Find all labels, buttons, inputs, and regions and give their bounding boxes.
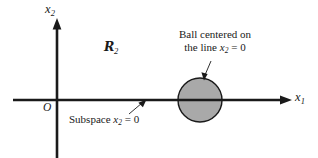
ball-caption-line-2-prefix: the line bbox=[184, 41, 219, 53]
ball-caption-line-1: Ball centered on bbox=[163, 28, 267, 41]
x2-axis-label: x2 bbox=[45, 2, 55, 18]
space-label-subscript: 2 bbox=[114, 46, 118, 56]
ball-caption-line-2-variable: x bbox=[220, 41, 225, 53]
figure-canvas bbox=[0, 0, 318, 158]
space-label-symbol: R bbox=[104, 39, 114, 54]
subspace-caption-prefix: Subspace bbox=[69, 113, 113, 125]
subspace-caption: Subspace x2 = 0 bbox=[69, 113, 139, 128]
subspace-caption-suffix: = 0 bbox=[122, 113, 139, 125]
ball-caption-line-2: the line x2 = 0 bbox=[163, 41, 267, 56]
figure-background bbox=[0, 0, 318, 158]
x1-axis-label-variable: x bbox=[295, 90, 301, 104]
origin-label: O bbox=[43, 101, 51, 115]
x2-axis-label-variable: x bbox=[45, 2, 51, 16]
x1-axis-label: x1 bbox=[295, 90, 305, 106]
ball-caption: Ball centered on the line x2 = 0 bbox=[163, 28, 267, 56]
x1-axis-label-subscript: 1 bbox=[301, 96, 305, 106]
ball-caption-line-2-suffix: = 0 bbox=[228, 41, 245, 53]
space-label: R2 bbox=[104, 40, 118, 56]
figure-container: x2 x1 O R2 Ball centered on the line x2 … bbox=[0, 0, 318, 158]
x2-axis-label-subscript: 2 bbox=[51, 8, 55, 18]
